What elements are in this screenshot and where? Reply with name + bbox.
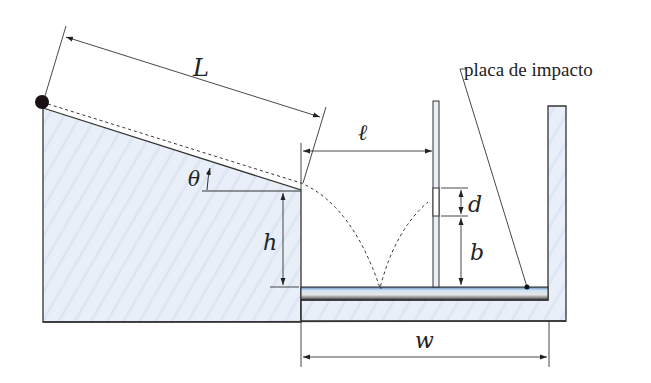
dim-d	[441, 188, 468, 216]
label-b: b	[470, 240, 484, 265]
label-impact-plate: placa de impacto	[464, 59, 593, 80]
label-theta: θ	[188, 167, 200, 191]
label-h: h	[263, 230, 277, 255]
impact-plate	[301, 287, 548, 300]
label-L: L	[192, 54, 209, 82]
ramp-block	[43, 108, 301, 322]
barrier-wall	[433, 101, 439, 287]
ball	[35, 95, 49, 109]
label-w: w	[415, 328, 434, 353]
label-d: d	[468, 192, 482, 217]
dim-ell	[301, 143, 432, 190]
label-ell: ℓ	[358, 120, 368, 145]
ramp-projectile-diagram: L θ h ℓ d b w placa de impacto	[0, 0, 651, 383]
